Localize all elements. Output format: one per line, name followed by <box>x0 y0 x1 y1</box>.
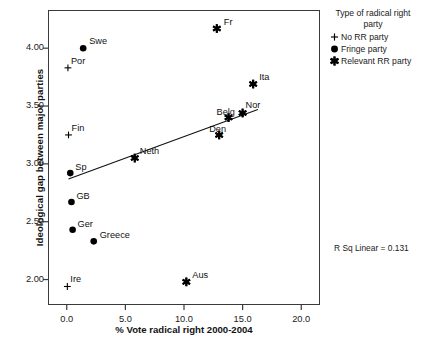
point-label-por: Por <box>71 56 85 66</box>
marker-asterisk <box>331 56 339 65</box>
point-label-gb: GB <box>76 191 89 201</box>
point-label-swe: Swe <box>89 36 107 46</box>
legend-title: Type of radical right party <box>328 8 418 30</box>
marker-circle <box>331 46 338 53</box>
legend-items: No RR partyFringe partyRelevant RR party <box>328 31 420 67</box>
r-squared-annotation: R Sq Linear = 0.131 <box>334 243 409 253</box>
data-point-sp <box>67 170 74 177</box>
point-label-neth: Neth <box>140 146 159 156</box>
point-label-ger: Ger <box>78 219 93 229</box>
legend-item-label: Fringe party <box>341 44 387 54</box>
legend-item-plus: No RR party <box>328 31 420 43</box>
data-point-gb <box>68 199 75 206</box>
data-point-aus <box>183 278 190 287</box>
point-label-fr: Fr <box>224 17 233 27</box>
scatter-plot-figure: Ideological gap between major parties 2.… <box>0 0 421 347</box>
point-label-aus: Aus <box>192 270 208 280</box>
marker-plus <box>331 33 338 40</box>
plus-icon <box>328 31 341 43</box>
point-label-ita: Ita <box>259 72 269 82</box>
circle-icon <box>328 43 341 55</box>
asterisk-icon <box>328 55 341 67</box>
point-label-greece: Greece <box>100 230 130 240</box>
point-label-den: Den <box>209 124 226 134</box>
point-label-belg: Belg <box>217 107 235 117</box>
point-label-ire: Ire <box>70 274 81 284</box>
point-label-fin: Fin <box>72 123 85 133</box>
data-point-fr <box>213 24 220 33</box>
legend-item-asterisk: Relevant RR party <box>328 55 420 67</box>
data-point-swe <box>80 45 87 52</box>
legend-item-label: Relevant RR party <box>341 56 411 66</box>
data-point-ger <box>69 227 76 234</box>
legend: Type of radical right party No RR partyF… <box>328 8 420 67</box>
point-label-sp: Sp <box>75 162 86 172</box>
legend-item-circle: Fringe party <box>328 43 420 55</box>
data-point-ita <box>249 80 256 89</box>
data-point-greece <box>90 238 97 245</box>
legend-item-label: No RR party <box>341 32 388 42</box>
point-label-nor: Nor <box>246 100 261 110</box>
